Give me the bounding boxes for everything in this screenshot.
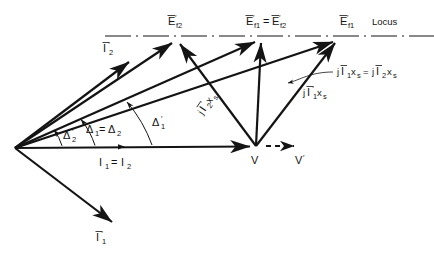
label-i2-prime-text: I: [103, 42, 106, 54]
label-i1-axis: I: [99, 156, 102, 168]
label-delta1-prime: Δ ′ 1: [152, 114, 165, 131]
label-jx-xs2: x: [387, 66, 392, 77]
label-delta1-prime-sub: 1: [161, 122, 165, 131]
label-i2-prime-sub: 2: [109, 48, 113, 57]
current-axis-vector: [15, 147, 250, 149]
phasor-diagram-canvas: E f2 ′ E f1 ′ = E f2 ′ E f1 ′ Locus I 2 …: [0, 0, 434, 254]
label-locus: Locus: [372, 16, 398, 27]
label-ef1: E f1 ′: [340, 13, 355, 30]
label-v-prime: V ′: [295, 153, 305, 166]
label-d1-sym: Δ: [86, 123, 94, 135]
label-i1-prime: I 1 ′: [96, 229, 107, 246]
label-ef2-prime-sub: f2: [176, 21, 182, 30]
label-jxp-xs-sub: s: [323, 92, 327, 101]
label-ef1-eq-ef2-prime: E f1 ′ = E f2 ′: [246, 13, 287, 30]
label-jx-j2: j: [371, 66, 374, 77]
label-jx-j1: j: [336, 66, 339, 77]
label-delta2-prime: Δ ′ 2: [63, 127, 76, 144]
label-i1-eq-i2: I 1 = I 2: [99, 156, 131, 171]
label-ef2-prime: E f2 ′: [168, 13, 183, 30]
label-delta1-prime-sym: Δ: [152, 116, 160, 128]
label-d-equals: =: [99, 123, 105, 135]
label-jx-xs1-sub: s: [357, 71, 361, 80]
label-jxp-j: j: [302, 87, 305, 98]
label-jx-xs2-sub: s: [393, 71, 397, 80]
label-d2-sub: 2: [117, 129, 121, 138]
vector-i1-prime: [15, 148, 112, 222]
label-ef2-prime-b-sub: f2: [280, 21, 286, 30]
label-i-axis-equals: =: [111, 156, 117, 168]
vector-jx-i1-i2: [256, 43, 261, 146]
label-ef1-sub: f1: [348, 21, 354, 30]
prime-v: ′: [303, 153, 305, 162]
label-jx-i1-prime: j I ′ 1 x s: [302, 84, 327, 101]
label-jx-i1-main: I: [341, 65, 344, 77]
axis-direction-tick: [118, 144, 125, 149]
label-i1-prime-text: I: [96, 231, 99, 243]
label-equals-sign: =: [263, 15, 269, 27]
label-d2-sym: Δ: [108, 123, 116, 135]
label-i1-axis-sub: 1: [105, 162, 109, 171]
label-jx-i2-main: I: [376, 65, 379, 77]
label-jx-i2-sub: 2: [382, 71, 386, 80]
label-i2-axis: I: [121, 156, 124, 168]
label-i2-prime: I 2 ′: [103, 40, 114, 57]
label-jxp-xs: x: [317, 87, 322, 98]
label-jx-i1-i2: j I 1 x s = j I 2 x s: [336, 65, 397, 80]
label-jx-xs1: x: [351, 66, 356, 77]
label-ef1-prime-sub: f1: [254, 21, 260, 30]
vector-ef2-prime: [15, 43, 172, 148]
label-delta2-prime-sym: Δ: [63, 129, 71, 141]
label-i2-axis-sub: 2: [127, 162, 131, 171]
label-jx-equals: =: [363, 66, 369, 77]
label-delta2-prime-sub: 2: [72, 135, 76, 144]
label-v-prime-sym: V: [295, 154, 303, 166]
label-v: V: [251, 154, 259, 166]
label-i1-prime-sub: 1: [102, 237, 106, 246]
label-jxp-i-main: I: [307, 86, 310, 98]
